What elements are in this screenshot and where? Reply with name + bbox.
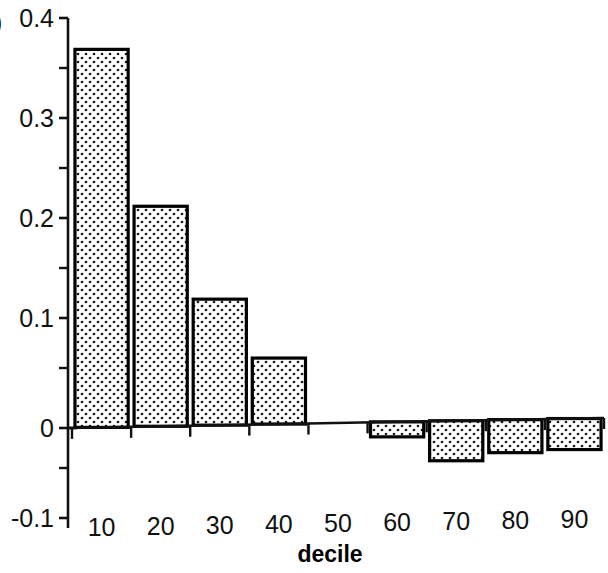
y-tick-label: 0.4 xyxy=(19,4,54,33)
bar-40 xyxy=(252,358,305,424)
y-tick-label: 0.1 xyxy=(19,304,54,333)
chart-canvas xyxy=(0,0,608,573)
x-tick-label: 60 xyxy=(383,508,411,537)
y-tick-label: -0.1 xyxy=(11,504,54,533)
bar-60 xyxy=(371,422,424,437)
bar-30 xyxy=(193,299,246,425)
bar-80 xyxy=(489,420,542,453)
bar-fill-40 xyxy=(252,358,305,424)
x-tick-label: 70 xyxy=(442,507,470,536)
bar-series xyxy=(75,49,601,460)
bar-fill-70 xyxy=(430,421,483,461)
x-tick-label: 80 xyxy=(501,506,529,535)
x-axis-title: decile xyxy=(297,541,362,568)
x-tick-label: 50 xyxy=(324,509,352,538)
bar-90 xyxy=(548,419,601,450)
x-tick-label: 20 xyxy=(147,512,175,541)
bar-10 xyxy=(75,49,128,427)
bar-fill-20 xyxy=(134,206,187,426)
bar-chart-figure: ) 0.40.30.20.10-0.1 102030405060708090 d… xyxy=(0,0,608,573)
x-tick-label: 40 xyxy=(265,510,293,539)
x-tick-label: 90 xyxy=(561,505,589,534)
bar-fill-80 xyxy=(489,420,542,453)
panel-label: ) xyxy=(0,8,3,37)
y-tick-label: 0.2 xyxy=(19,204,54,233)
bar-fill-10 xyxy=(75,49,128,427)
y-tick-label: 0 xyxy=(40,414,54,443)
bar-70 xyxy=(430,421,483,461)
x-tick-label: 10 xyxy=(88,513,116,542)
x-tick-label: 30 xyxy=(206,511,234,540)
bar-fill-90 xyxy=(548,419,601,450)
bar-20 xyxy=(134,206,187,426)
bar-fill-30 xyxy=(193,299,246,425)
bar-fill-60 xyxy=(371,422,424,437)
y-tick-label: 0.3 xyxy=(19,104,54,133)
